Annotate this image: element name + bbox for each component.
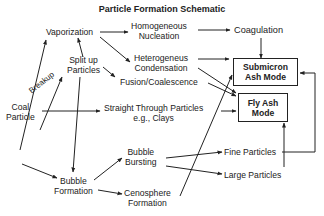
- particle-formation-diagram: Particle Formation Schematic Vaporizatio…: [0, 0, 324, 216]
- diagram-title: Particle Formation Schematic: [0, 4, 324, 14]
- node-bubble-formation: Bubble Formation: [54, 176, 93, 196]
- node-fly-ash-mode: Fly Ash Mode: [238, 93, 288, 122]
- node-fusion-coalescence: Fusion/Coalescence: [120, 77, 198, 87]
- node-coal-particle: Coal Particle: [6, 102, 35, 122]
- node-straight-through-particles: Straight Through Particles e.g., Clays: [104, 103, 203, 123]
- node-heterogeneous-condensation: Heterogeneus Condensation: [134, 53, 188, 73]
- node-homogeneous-nucleation: Homogeneous Nucleation: [131, 21, 187, 41]
- node-large-particles: Large Particles: [224, 170, 281, 180]
- node-coagulation: Coagulation: [234, 25, 283, 35]
- node-split-up-particles: Split up Particles: [67, 55, 100, 75]
- node-fine-particles: Fine Particles: [224, 147, 276, 157]
- node-submicron-ash-mode: Submicron Ash Mode: [233, 58, 298, 86]
- node-vaporization: Vaporization: [46, 27, 93, 37]
- node-bubble-bursting: Bubble Bursting: [125, 147, 157, 167]
- node-cenosphere-formation: Cenosphere Formation: [124, 188, 171, 208]
